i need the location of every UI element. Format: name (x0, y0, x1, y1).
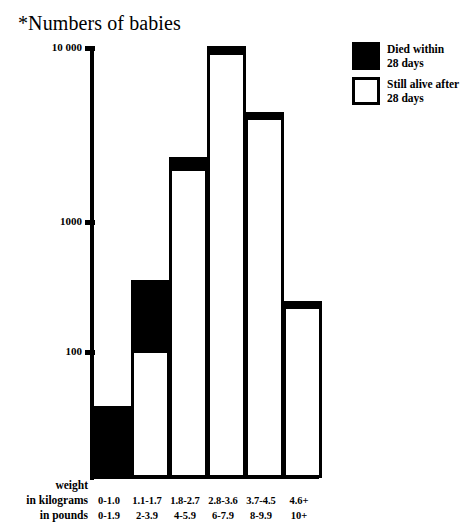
x-tick-label-kg-4: 3.7-4.5 (242, 478, 280, 508)
y-tick-label-1000: 1000 (2, 215, 82, 227)
x-axis-tick-labels: 0-1.0 0-1.9 1.1-1.7 2-3.9 1.8-2.7 4-5.9 … (90, 478, 322, 524)
bar-segment-alive-4 (245, 117, 284, 478)
legend-label-died-line2: 28 days (387, 57, 444, 71)
x-tick-label-group-3: 2.8-3.6 6-7.9 (204, 478, 242, 523)
x-axis-name-weight: weight (0, 478, 88, 493)
x-tick-label-lb-2: 4-5.9 (166, 508, 204, 523)
x-axis-name-pounds: in pounds (0, 508, 88, 523)
x-tick-label-kg-5: 4.6+ (280, 478, 318, 508)
y-tick-label-100: 100 (2, 345, 82, 357)
legend-item-alive: Still alive after 28 days (352, 77, 468, 105)
legend-label-alive-line2: 28 days (387, 92, 459, 106)
bar-segment-alive-1 (131, 350, 170, 478)
x-axis-name-kilograms: in kilograms (0, 493, 88, 508)
x-tick-label-kg-3: 2.8-3.6 (204, 478, 242, 508)
x-tick-label-group-5: 4.6+ 10+ (280, 478, 318, 523)
legend-label-died: Died within 28 days (387, 42, 444, 70)
x-tick-label-group-0: 0-1.0 0-1.9 (90, 478, 128, 523)
bar-segment-alive-3 (207, 52, 246, 478)
x-tick-label-lb-1: 2-3.9 (128, 508, 166, 523)
bar-segment-alive-2 (169, 168, 208, 478)
x-tick-label-lb-5: 10+ (280, 508, 318, 523)
x-axis-name-block: weight in kilograms in pounds (0, 478, 88, 523)
x-tick-label-kg-0: 0-1.0 (90, 478, 128, 508)
bar-segment-died-4 (245, 112, 284, 119)
legend-label-alive: Still alive after 28 days (387, 77, 459, 105)
legend-label-alive-line1: Still alive after (387, 78, 459, 92)
legend-item-died: Died within 28 days (352, 42, 468, 70)
bar-segment-died-5 (283, 301, 322, 308)
x-tick-label-group-4: 3.7-4.5 8-9.9 (242, 478, 280, 523)
bar-segment-died-3 (207, 46, 246, 54)
y-tick-10000 (85, 46, 95, 51)
chart-legend: Died within 28 days Still alive after 28… (352, 42, 468, 112)
y-tick-100 (85, 350, 95, 355)
x-tick-label-kg-1: 1.1-1.7 (128, 478, 166, 508)
y-tick-label-10000: 10 000 (2, 41, 82, 53)
bar-segment-died-1 (131, 280, 170, 352)
x-tick-label-lb-4: 8-9.9 (242, 508, 280, 523)
legend-swatch-alive-icon (352, 77, 380, 105)
legend-label-died-line1: Died within (387, 43, 444, 57)
x-tick-label-kg-2: 1.8-2.7 (166, 478, 204, 508)
x-tick-label-group-2: 1.8-2.7 4-5.9 (166, 478, 204, 523)
chart-root: *Numbers of babies 10 000 1000 100 (0, 0, 468, 526)
x-tick-label-lb-0: 0-1.9 (90, 508, 128, 523)
bar-segment-died-0 (94, 406, 132, 478)
bar-segment-alive-5 (283, 306, 322, 478)
x-tick-label-group-1: 1.1-1.7 2-3.9 (128, 478, 166, 523)
x-tick-label-lb-3: 6-7.9 (204, 508, 242, 523)
bar-segment-died-2 (169, 157, 208, 170)
y-tick-1000 (85, 220, 95, 225)
legend-swatch-died-icon (352, 42, 380, 70)
